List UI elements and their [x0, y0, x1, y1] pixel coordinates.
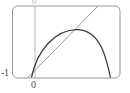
figure-container: -1 0 0 — [0, 0, 130, 93]
plot-background — [13, 6, 121, 78]
y-axis-label-top-zero: 0 — [32, 0, 37, 6]
y-axis-label-negative-one: -1 — [1, 68, 9, 78]
plot-svg — [0, 0, 130, 93]
x-axis-label-origin: 0 — [31, 80, 36, 90]
